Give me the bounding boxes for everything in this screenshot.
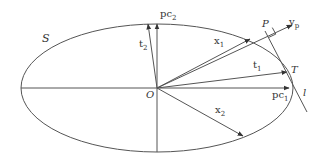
label-x2: x2: [215, 104, 225, 118]
t2-vector: [148, 24, 157, 88]
label-s: S: [42, 32, 50, 45]
x2-vector: [157, 88, 243, 136]
label-l: l: [303, 87, 306, 98]
label-x1: x1: [214, 35, 224, 49]
label-t1: t1: [253, 59, 262, 73]
x1-vector: [157, 39, 250, 88]
label-t2: t2: [139, 38, 148, 52]
label-pc1: pc1: [272, 89, 288, 103]
right-angle-marker: [269, 28, 276, 38]
t1-vector: [157, 72, 287, 88]
diagram-canvas: S O P T l pc2 pc1 t2 t1 x1 x2 yp: [0, 0, 322, 160]
label-yp: yp: [288, 16, 300, 30]
label-o: O: [146, 89, 154, 100]
yp-line: [157, 25, 292, 88]
label-t: T: [291, 64, 299, 75]
label-p: P: [261, 18, 269, 29]
label-pc2: pc2: [160, 8, 176, 22]
